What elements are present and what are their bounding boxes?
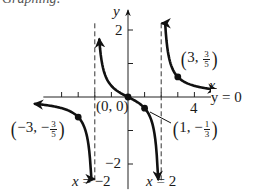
data-point	[75, 114, 82, 121]
v-asym-left-var: x	[72, 173, 79, 189]
graph-figure: Graphing: y 2 −2 4 x yy = 0 x = −2 x = 2…	[0, 0, 260, 192]
paren-open: (	[11, 118, 17, 140]
frac-den: 5	[50, 130, 57, 139]
frac-den: 5	[203, 60, 210, 69]
data-point	[174, 74, 181, 81]
frac-num: 3	[50, 120, 57, 130]
paren-close: )	[58, 118, 64, 140]
y-axis-label: y	[113, 4, 120, 19]
paren-open: (	[173, 118, 179, 140]
pt-left-x: −3, −	[17, 119, 49, 135]
fraction-1-3: 13	[204, 120, 211, 139]
v-asym-right-value: = 2	[153, 173, 176, 189]
frac-num: 1	[204, 120, 211, 130]
vertical-asymptote-label-right: x = 2	[146, 174, 176, 189]
vertical-asymptote-label-left: x = −2	[72, 174, 111, 189]
fraction-3-5: 35	[203, 50, 210, 69]
leader-line-1-neg1-3	[150, 112, 171, 123]
pt-mid-x: 1, −	[179, 119, 202, 135]
y-tick-label-2: 2	[115, 23, 123, 38]
y-tick-label-neg2: −2	[105, 156, 121, 171]
point-label-origin: (0, 0)	[96, 99, 129, 114]
point-label-neg3-neg3over5: (−3, −35)	[10, 118, 65, 140]
horizontal-asymptote-label: yy = 0	[212, 90, 242, 105]
point-label-3-3over5: (3, 35)	[180, 48, 218, 70]
v-asym-right-var: x	[146, 173, 153, 189]
v-asym-left-value: = −2	[79, 173, 111, 189]
pt-right-x: 3,	[187, 49, 198, 65]
frac-num: 3	[203, 50, 210, 60]
frac-den: 3	[204, 130, 211, 139]
fraction-3-5: 35	[50, 120, 57, 139]
point-label-1-neg1over3: (1, −13)	[172, 118, 219, 140]
paren-open: (	[181, 48, 187, 70]
x-tick-label-4: 4	[190, 101, 198, 116]
data-point	[141, 105, 148, 112]
h-asym-text: y = 0	[211, 89, 242, 105]
paren-close: )	[212, 48, 218, 70]
paren-close: )	[212, 118, 218, 140]
